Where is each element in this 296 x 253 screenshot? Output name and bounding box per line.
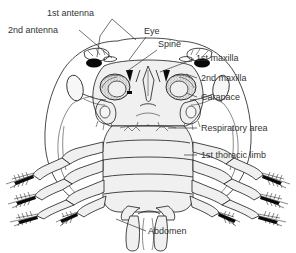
leader-eye: [129, 37, 146, 60]
label-second-maxilla: 2nd maxilla: [201, 73, 247, 83]
label-first-antenna: 1st antenna: [47, 8, 94, 18]
label-eye: Eye: [144, 26, 160, 36]
label-respiratory-area: Respiratory area: [201, 123, 268, 133]
label-first-thoracic-limb: 1st thoracic limb: [201, 150, 266, 160]
thoracic-limbs-left: [6, 142, 106, 226]
label-first-maxilla: 1st maxilla: [196, 53, 239, 63]
first-antenna-left: [84, 48, 109, 67]
eye-right: [166, 74, 196, 100]
leader-second-antenna: [79, 30, 112, 58]
figure-canvas: 1st antenna 2nd antenna Eye Spine 1st ma…: [0, 0, 296, 253]
antenna-blob-left: [86, 58, 102, 67]
label-abdomen: Abdomen: [148, 226, 187, 236]
label-carapace: Carapace: [201, 92, 240, 102]
thorax: [103, 126, 193, 212]
eye-left: [100, 74, 130, 100]
organism-drawing: [6, 38, 290, 251]
label-spine: Spine: [158, 39, 181, 49]
label-second-antenna: 2nd antenna: [8, 25, 58, 35]
leader-first-antenna: [112, 19, 136, 40]
